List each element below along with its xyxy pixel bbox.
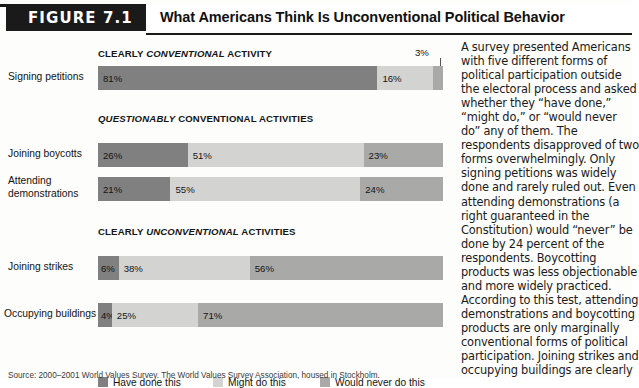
segment-label: 51% [193, 150, 212, 161]
segment-might-do: 55% [170, 177, 360, 201]
segment-label: 25% [117, 310, 136, 321]
segment-would-never [433, 66, 443, 90]
row-label-occupying-buildings: Occupying buildings [4, 308, 98, 321]
caption-text-column: A survey presented Americans with five d… [461, 40, 639, 378]
segment-label: 21% [103, 184, 122, 195]
segment-have-done: 21% [98, 177, 170, 201]
header-bottom-rule [146, 33, 632, 35]
figure-title: What Americans Think Is Unconventional P… [160, 9, 565, 25]
group-heading-1-tail: ACTIVITY [225, 48, 272, 59]
group-heading-conventional: CLEARLY CONVENTIONAL ACTIVITY [98, 48, 272, 59]
bar-occupying-buildings: 4% 25% 71% [98, 303, 443, 327]
row-label-attending-demonstrations: Attending demonstrations [8, 175, 94, 200]
figure-number-label: FIGURE 7.1 [28, 8, 133, 27]
segment-label: 26% [103, 150, 122, 161]
group-heading-1-plain: CLEARLY [98, 48, 146, 59]
segment-would-never: 24% [360, 177, 443, 201]
segment-might-do: 25% [112, 303, 198, 327]
segment-might-do: 38% [119, 256, 250, 280]
segment-might-do: 16% [377, 66, 432, 90]
segment-would-never: 56% [250, 256, 443, 280]
row-label-joining-boycotts: Joining boycotts [8, 148, 94, 161]
segment-might-do: 51% [188, 143, 364, 167]
segment-would-never: 23% [364, 143, 443, 167]
bar-joining-strikes: 6% 38% 56% [98, 256, 443, 280]
row-label-joining-strikes: Joining strikes [8, 261, 94, 274]
group-heading-3-tail: ACTIVITIES [239, 226, 296, 237]
segment-have-done: 81% [98, 66, 377, 90]
segment-label: 38% [124, 263, 143, 274]
segment-have-done: 26% [98, 143, 188, 167]
caption-body-text: A survey presented Americans with five d… [461, 40, 639, 378]
segment-label: 24% [365, 184, 384, 195]
group-heading-2-tail: CONVENTIONAL ACTIVITIES [175, 113, 313, 124]
segment-label: 16% [382, 73, 401, 84]
group-heading-3-italic: UNCONVENTIONAL [146, 226, 239, 237]
group-heading-2-italic: QUESTIONABLY [98, 113, 175, 124]
segment-label: 56% [255, 263, 274, 274]
segment-have-done: 4% [98, 303, 112, 327]
bar-attending-demonstrations: 21% 55% 24% [98, 177, 443, 201]
segment-label: 81% [103, 73, 122, 84]
segment-would-never: 71% [198, 303, 443, 327]
stacked-bar-chart: CLEARLY CONVENTIONAL ACTIVITY 3% Signing… [0, 36, 458, 378]
group-heading-questionably: QUESTIONABLY CONVENTIONAL ACTIVITIES [98, 113, 313, 124]
bar-joining-boycotts: 26% 51% 23% [98, 143, 443, 167]
segment-label: 55% [175, 184, 194, 195]
callout-3-percent-label: 3% [415, 47, 429, 58]
source-note: Source: 2000–2001 World Values Survey. T… [8, 371, 458, 380]
row-label-signing-petitions: Signing petitions [8, 71, 94, 84]
segment-label: 23% [369, 150, 388, 161]
figure-header: FIGURE 7.1 What Americans Think Is Uncon… [0, 4, 632, 31]
group-heading-unconventional: CLEARLY UNCONVENTIONAL ACTIVITIES [98, 226, 296, 237]
segment-have-done: 6% [98, 256, 119, 280]
segment-label: 71% [203, 310, 222, 321]
figure-number-banner: FIGURE 7.1 [6, 4, 146, 31]
group-heading-1-italic: CONVENTIONAL [146, 48, 225, 59]
group-heading-3-plain: CLEARLY [98, 226, 146, 237]
segment-label: 6% [101, 263, 115, 274]
bar-signing-petitions: 81% 16% [98, 66, 443, 90]
